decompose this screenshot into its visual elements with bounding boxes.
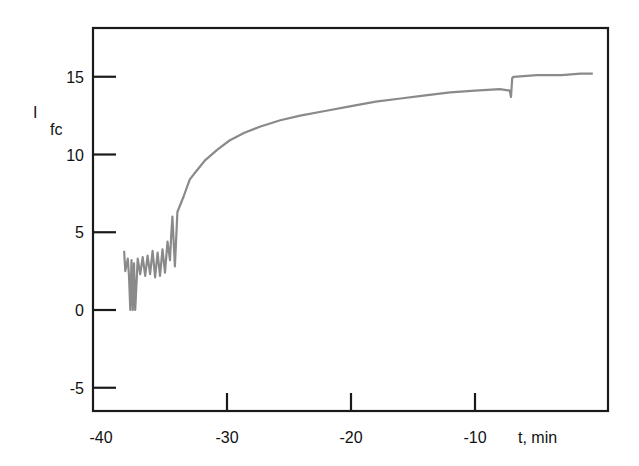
chart: 151050-5 -40-30-20-10 I fc t, min xyxy=(0,0,639,466)
y-axis-ticks: 151050-5 xyxy=(66,69,116,397)
y-tick-label: 0 xyxy=(75,302,84,319)
x-axis-ticks: -40-30-20-10 xyxy=(89,393,486,446)
y-axis-label: I xyxy=(33,104,37,121)
plot-frame xyxy=(93,28,608,411)
x-tick-label: -40 xyxy=(89,429,112,446)
x-axis-label: t, min xyxy=(518,429,557,446)
x-tick-label: -20 xyxy=(339,429,362,446)
data-series-line xyxy=(124,74,593,310)
y-axis-label-subscript: fc xyxy=(50,121,62,138)
y-tick-label: 5 xyxy=(75,224,84,241)
y-tick-label: -5 xyxy=(70,380,84,397)
x-tick-label: -10 xyxy=(463,429,486,446)
x-tick-label: -30 xyxy=(215,429,238,446)
y-tick-label: 10 xyxy=(66,147,84,164)
y-tick-label: 15 xyxy=(66,69,84,86)
